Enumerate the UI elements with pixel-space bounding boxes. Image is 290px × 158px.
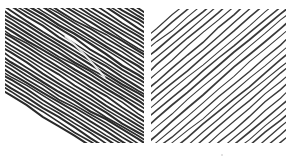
hatch-line (151, 39, 286, 143)
dense-hatching-drawing (5, 8, 144, 143)
hatch-line (151, 9, 286, 140)
stray-mark (221, 154, 223, 156)
sparse-hatching-square (151, 9, 286, 143)
dense-hatching-square (5, 8, 144, 143)
sparse-hatching-drawing (151, 9, 286, 143)
hatch-line (151, 9, 286, 87)
